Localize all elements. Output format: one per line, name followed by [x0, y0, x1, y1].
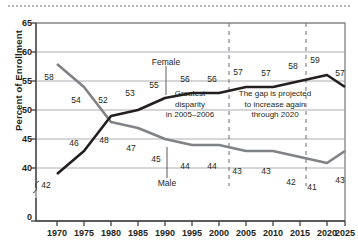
data-label-female: 59 — [307, 55, 323, 65]
annotation-line: through 2020 — [231, 110, 319, 121]
data-label-female: 57 — [332, 68, 348, 78]
data-label-male: 42 — [283, 177, 299, 187]
data-label-female: 58 — [285, 61, 301, 71]
annotation-line: Greatest — [152, 89, 228, 100]
series-label-female: Female — [146, 57, 186, 67]
data-label-female: 57 — [230, 67, 246, 77]
data-label-female: 52 — [95, 95, 111, 105]
annotation-gap-projected: The gap is projected to increase again t… — [231, 89, 319, 121]
data-label-male: 41 — [304, 182, 320, 192]
data-label-male: 48 — [96, 135, 112, 145]
chart-plot-area — [0, 0, 358, 245]
plot-border — [36, 23, 345, 221]
x-axis — [36, 221, 345, 226]
data-label-female: 57 — [258, 68, 274, 78]
data-label-female: 56 — [177, 74, 193, 84]
data-label-female: 56 — [204, 74, 220, 84]
series-label-male: Male — [147, 178, 187, 188]
chart-figure: Percent of Enrollment 65 60 55 50 45 40 … — [0, 0, 358, 245]
data-label-female: 46 — [66, 138, 82, 148]
annotation-line: in 2005–2006 — [152, 110, 228, 121]
data-label-male: 58 — [41, 72, 57, 82]
annotation-line: disparity — [152, 100, 228, 111]
annotation-line: to increase again — [231, 100, 319, 111]
data-label-male: 43 — [332, 175, 348, 185]
data-label-female: 53 — [122, 88, 138, 98]
annotation-greatest-disparity: Greatest disparity in 2005–2006 — [152, 89, 228, 121]
data-label-male: 45 — [148, 154, 164, 164]
data-label-male: 47 — [123, 143, 139, 153]
data-label-male: 54 — [68, 95, 84, 105]
annotation-line: The gap is projected — [231, 89, 319, 100]
data-label-male: 44 — [204, 161, 220, 171]
data-label-female: 42 — [38, 180, 54, 190]
data-label-male: 43 — [258, 166, 274, 176]
data-label-male: 44 — [177, 161, 193, 171]
data-label-male: 43 — [229, 166, 245, 176]
